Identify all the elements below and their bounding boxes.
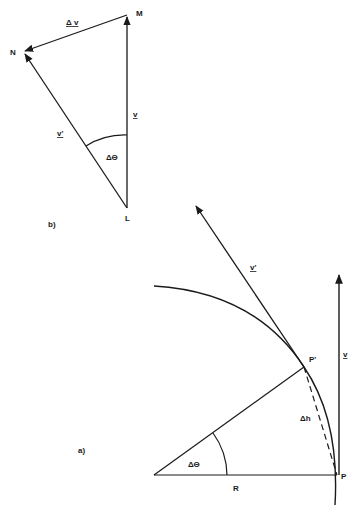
vector-label-v-a: v xyxy=(343,350,348,359)
angle-arc-b xyxy=(86,135,127,146)
vector-v-prime-a xyxy=(196,206,304,367)
point-label-n: N xyxy=(10,48,16,57)
angle-arc-a xyxy=(213,433,227,475)
figure-a: P P' v v' R Δh ΔΘ a) xyxy=(78,206,348,505)
point-label-p: P xyxy=(341,472,347,481)
panel-label-a: a) xyxy=(78,446,85,455)
circular-path xyxy=(154,286,336,505)
point-label-l: L xyxy=(125,214,130,223)
vector-label-v-prime-b: v' xyxy=(57,129,63,138)
radius-label: R xyxy=(233,484,239,493)
point-label-p-prime: P' xyxy=(309,355,316,364)
angle-label-b: ΔΘ xyxy=(106,153,118,162)
vector-label-v-b: v xyxy=(133,110,138,119)
panel-label-b: b) xyxy=(48,220,56,229)
chord-label: Δh xyxy=(300,414,311,423)
angle-label-a: ΔΘ xyxy=(188,460,200,469)
vector-label-delta-v: Δ v xyxy=(66,18,79,27)
point-label-m: M xyxy=(136,9,143,18)
vector-v-prime-b xyxy=(25,54,127,208)
figure-b: M N L Δ v v v' ΔΘ b) xyxy=(10,9,143,229)
radius-to-p-prime xyxy=(154,367,304,475)
vector-label-v-prime-a: v' xyxy=(250,263,256,272)
diagram-canvas: M N L Δ v v v' ΔΘ b) P P' v v' R Δh ΔΘ a… xyxy=(0,0,361,513)
